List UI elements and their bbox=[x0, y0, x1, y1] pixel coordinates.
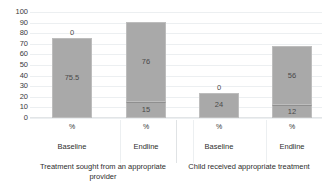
y-tick-label: 0 bbox=[24, 114, 28, 122]
bar-segment[interactable]: 56 bbox=[272, 46, 312, 105]
y-tick-label: 100 bbox=[15, 8, 28, 16]
bar-stack[interactable]: 7615 bbox=[126, 22, 166, 118]
bar-segment-value: 76 bbox=[142, 58, 150, 66]
category-unit-label: % bbox=[266, 122, 318, 131]
bar-segment-value: 56 bbox=[288, 72, 296, 80]
gridline bbox=[30, 23, 322, 24]
category-phase-label: Baseline bbox=[46, 142, 98, 152]
gridline bbox=[30, 12, 322, 13]
plot-area: 75.5076152405612 bbox=[30, 12, 322, 118]
bar-segment[interactable]: 15 bbox=[126, 102, 166, 118]
category-separator bbox=[120, 120, 121, 163]
bar-chart: 1009080706050403020100 75.5076152405612 … bbox=[0, 0, 326, 187]
bar-segment-value: 75.5 bbox=[65, 74, 80, 82]
category-tick: %Baseline bbox=[46, 120, 98, 152]
bar-segment-value: 12 bbox=[288, 108, 296, 116]
bar-segment-value-zero: 0 bbox=[46, 29, 98, 37]
category-tick: %Endline bbox=[266, 120, 318, 152]
category-tick: %Endline bbox=[120, 120, 172, 152]
category-unit-label: % bbox=[46, 122, 98, 131]
y-tick-label: 20 bbox=[20, 93, 28, 101]
bar-segment[interactable]: 12 bbox=[272, 105, 312, 118]
bar-segment[interactable]: 76 bbox=[126, 22, 166, 103]
y-tick-label: 60 bbox=[20, 50, 28, 58]
category-unit-label: % bbox=[120, 122, 172, 131]
category-tick: %Baseline bbox=[193, 120, 245, 152]
bar-segment-value: 24 bbox=[215, 101, 223, 109]
category-phase-label: Endline bbox=[266, 142, 318, 152]
category-separator bbox=[193, 120, 194, 163]
group-label-child-received: Child received appropriate treatment bbox=[176, 162, 322, 172]
bar-segment[interactable]: 75.5 bbox=[52, 38, 92, 118]
bar-stack[interactable]: 75.5 bbox=[52, 38, 92, 118]
y-tick-label: 70 bbox=[20, 40, 28, 48]
y-tick-label: 80 bbox=[20, 29, 28, 37]
bar-stack[interactable]: 5612 bbox=[272, 46, 312, 118]
category-separator bbox=[266, 120, 267, 163]
bar-stack[interactable]: 24 bbox=[199, 93, 239, 118]
y-tick-label: 30 bbox=[20, 82, 28, 90]
category-unit-label: % bbox=[193, 122, 245, 131]
bar-segment-value: 15 bbox=[142, 106, 150, 114]
category-phase-label: Baseline bbox=[193, 142, 245, 152]
bar-segment-value-zero: 0 bbox=[193, 84, 245, 92]
category-axis: Treatment sought from an appropriate pro… bbox=[30, 120, 322, 182]
group-label-treatment-sought: Treatment sought from an appropriate pro… bbox=[30, 162, 176, 182]
gridline bbox=[30, 118, 322, 119]
y-tick-label: 50 bbox=[20, 61, 28, 69]
y-tick-label: 10 bbox=[20, 103, 28, 111]
bar-segment[interactable]: 24 bbox=[199, 93, 239, 118]
y-axis: 1009080706050403020100 bbox=[0, 8, 30, 122]
y-tick-label: 90 bbox=[20, 19, 28, 27]
y-tick-label: 40 bbox=[20, 72, 28, 80]
group-separator bbox=[176, 120, 177, 163]
category-phase-label: Endline bbox=[120, 142, 172, 152]
